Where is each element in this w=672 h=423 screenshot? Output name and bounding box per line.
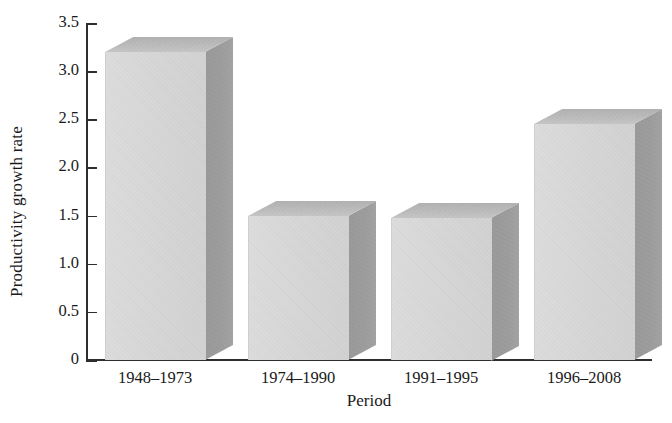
bar-side-face xyxy=(205,37,233,360)
bar-chart: Productivity growth rate 00.51.01.52.02.… xyxy=(0,0,672,423)
y-axis-tick-label: 2.0 xyxy=(58,159,79,176)
x-axis-title: Period xyxy=(86,392,652,409)
bar-side-face xyxy=(491,202,519,360)
y-axis-title: Productivity growth rate xyxy=(0,0,34,423)
y-axis-tick-mark xyxy=(86,312,97,314)
bar xyxy=(105,52,205,360)
y-axis-tick-mark xyxy=(86,71,97,73)
y-axis-tick-mark xyxy=(86,360,97,362)
y-axis-tick-mark xyxy=(86,23,97,25)
y-axis-tick-label: 0 xyxy=(71,351,79,368)
x-axis-category-label: 1996–2008 xyxy=(534,370,634,387)
y-axis-tick-label: 0.5 xyxy=(58,303,79,320)
y-axis-tick-mark xyxy=(86,167,97,169)
bar-side-face xyxy=(634,109,662,360)
y-axis-title-text: Productivity growth rate xyxy=(7,126,27,297)
y-axis-line xyxy=(86,23,88,360)
bar xyxy=(248,216,348,360)
bar-front-face xyxy=(105,52,206,360)
y-axis-tick-mark xyxy=(86,216,97,218)
y-axis-tick-label: 3.5 xyxy=(58,14,79,31)
x-axis-title-text: Period xyxy=(347,391,391,410)
y-axis-tick-label: 2.5 xyxy=(58,111,79,128)
y-axis-tick-label: 1.0 xyxy=(58,255,79,272)
bar-front-face xyxy=(391,218,492,361)
bar-side-face xyxy=(348,201,376,360)
x-axis-category-label: 1991–1995 xyxy=(391,370,491,387)
y-axis-tick-label: 1.5 xyxy=(58,207,79,224)
bar xyxy=(391,218,491,361)
bar xyxy=(534,124,634,360)
bar-front-face xyxy=(534,124,635,360)
x-axis-category-label: 1948–1973 xyxy=(105,370,205,387)
y-axis-tick-label: 3.0 xyxy=(58,63,79,80)
y-axis-tick-mark xyxy=(86,264,97,266)
bar-front-face xyxy=(248,216,349,360)
x-axis-category-label: 1974–1990 xyxy=(248,370,348,387)
y-axis-tick-mark xyxy=(86,119,97,121)
plot-area: 00.51.01.52.02.53.03.5 1948–19731974–199… xyxy=(86,18,652,363)
